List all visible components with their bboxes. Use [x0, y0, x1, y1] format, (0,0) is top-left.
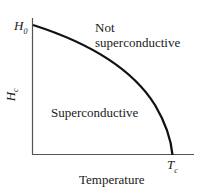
not-superconductive-line1: Not	[95, 21, 115, 35]
tc-label: Tc	[167, 158, 178, 178]
hc-axis-label: Hc	[4, 88, 24, 101]
superconductive-label: Superconductive	[51, 106, 138, 120]
h0-label: H0	[14, 19, 27, 39]
x-axis-label: Temperature	[79, 173, 145, 187]
not-superconductive-line2: superconductive	[95, 36, 180, 50]
